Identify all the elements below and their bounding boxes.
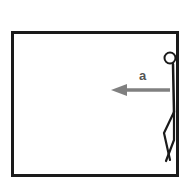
person-head-icon (165, 53, 176, 64)
enclosure-box (12, 32, 177, 175)
diagram-canvas (0, 0, 192, 188)
person-torso (173, 64, 174, 112)
physics-diagram: a (0, 0, 192, 188)
acceleration-label: a (139, 69, 146, 82)
